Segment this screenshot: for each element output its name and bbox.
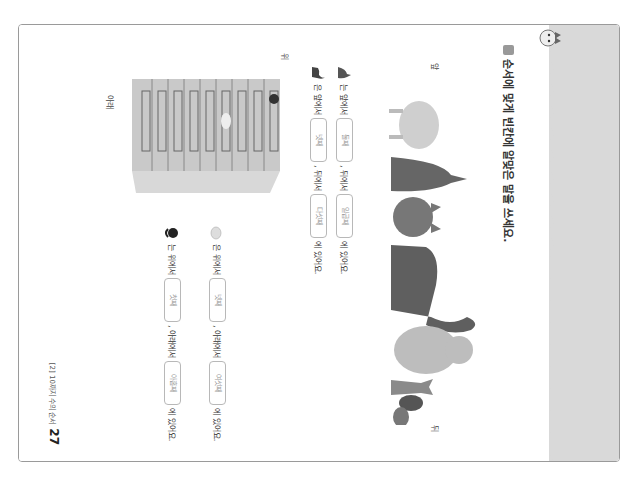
front-phrase: 앞에서 bbox=[339, 94, 350, 115]
back-phrase: , 뒤에서 bbox=[339, 165, 350, 191]
page-footer: [2] 10까지 수의 순서27 bbox=[47, 25, 61, 445]
sentence-ending: 에 있어요. bbox=[212, 408, 223, 441]
animal-row-illustration bbox=[381, 95, 481, 425]
monkey-icon bbox=[269, 94, 279, 104]
column-sentence-1: 은 위에서 넷째 , 아래에서 여섯째 에 있어요. bbox=[209, 225, 226, 441]
answer-box-back[interactable]: 일곱째 bbox=[336, 194, 353, 238]
page-number: 27 bbox=[47, 428, 61, 445]
textbook-page-frame: 순서에 맞게 빈칸에 알맞은 말을 쓰세요. 앞 뒤 는 앞에서 둘째 , 뒤에… bbox=[18, 24, 620, 462]
apartment-building-illustration bbox=[126, 71, 286, 201]
row-sentence-1: 는 앞에서 둘째 , 뒤에서 일곱째 에 있어요. bbox=[336, 65, 353, 274]
particle: 는 bbox=[339, 84, 350, 91]
top-phrase: 위에서 bbox=[167, 254, 178, 275]
answer-box-bottom[interactable]: 아홉째 bbox=[164, 361, 181, 405]
particle: 는 bbox=[167, 244, 178, 251]
fox-icon bbox=[391, 379, 433, 395]
particle: 은 bbox=[313, 84, 324, 91]
dinosaur-icon bbox=[391, 245, 475, 333]
sheep-icon bbox=[389, 101, 439, 149]
label-top: 위 bbox=[280, 53, 291, 60]
textbook-page: 순서에 맞게 빈칸에 알맞은 말을 쓰세요. 앞 뒤 는 앞에서 둘째 , 뒤에… bbox=[19, 25, 620, 462]
label-back: 뒤 bbox=[430, 425, 441, 432]
answer-box-front[interactable]: 둘째 bbox=[336, 118, 353, 162]
bottom-phrase: , 아래에서 bbox=[167, 325, 178, 358]
label-bottom: 아래 bbox=[105, 95, 116, 109]
answer-box-bottom[interactable]: 여섯째 bbox=[209, 361, 226, 405]
sheep-icon bbox=[221, 113, 231, 129]
sentence-ending: 에 있어요. bbox=[167, 408, 178, 441]
particle: 은 bbox=[212, 244, 223, 251]
mascot-icon bbox=[537, 25, 563, 51]
back-phrase: , 뒤에서 bbox=[313, 165, 324, 191]
unit-title: [2] 10까지 수의 순서 bbox=[48, 363, 56, 425]
bear-icon bbox=[394, 326, 473, 374]
sentence-ending: 에 있어요. bbox=[313, 241, 324, 274]
kangaroo-icon bbox=[391, 157, 467, 191]
kangaroo-icon bbox=[337, 65, 353, 81]
sheep-icon bbox=[210, 225, 226, 241]
label-front: 앞 bbox=[430, 63, 441, 70]
sentence-ending: 에 있어요. bbox=[339, 241, 350, 274]
front-phrase: 앞에서 bbox=[313, 94, 324, 115]
question-marker-icon bbox=[503, 45, 514, 55]
header-band bbox=[549, 25, 620, 462]
cat-icon bbox=[393, 197, 441, 237]
answer-box-top[interactable]: 넷째 bbox=[209, 278, 226, 322]
answer-box-top[interactable]: 첫째 bbox=[164, 278, 181, 322]
answer-box-front[interactable]: 넷째 bbox=[310, 118, 327, 162]
answer-box-back[interactable]: 다섯째 bbox=[310, 194, 327, 238]
bottom-phrase: , 아래에서 bbox=[212, 325, 223, 358]
row-sentence-2: 은 앞에서 넷째 , 뒤에서 다섯째 에 있어요. bbox=[310, 65, 327, 274]
monkey-icon bbox=[165, 225, 181, 241]
column-sentence-2: 는 위에서 첫째 , 아래에서 아홉째 에 있어요. bbox=[164, 225, 181, 441]
instruction-heading: 순서에 맞게 빈칸에 알맞은 말을 쓰세요. bbox=[501, 45, 517, 242]
instruction-text: 순서에 맞게 빈칸에 알맞은 말을 쓰세요. bbox=[501, 59, 514, 242]
wavy-edge bbox=[543, 25, 563, 462]
top-phrase: 위에서 bbox=[212, 254, 223, 275]
dinosaur-icon bbox=[311, 65, 327, 81]
